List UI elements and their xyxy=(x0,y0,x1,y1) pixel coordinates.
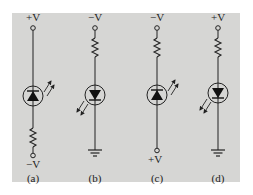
ground-icon xyxy=(211,150,225,156)
led-circuits-diagram: +V −V (a) −V xyxy=(0,0,253,195)
led-icon xyxy=(23,81,54,106)
supply-label-top: −V xyxy=(150,11,164,23)
resistor-icon xyxy=(154,38,160,57)
supply-label-top: +V xyxy=(26,11,40,23)
circuit-a: +V −V (a) xyxy=(23,11,54,185)
supply-label-bottom: +V xyxy=(148,153,162,165)
circuit-b: −V (b) xyxy=(77,11,105,185)
led-icon xyxy=(147,80,178,105)
terminal-icon xyxy=(93,26,98,31)
led-icon xyxy=(77,85,105,115)
caption: (d) xyxy=(212,172,225,185)
resistor-icon xyxy=(215,38,221,57)
caption: (c) xyxy=(151,172,164,185)
supply-label-top: −V xyxy=(88,11,102,23)
resistor-icon xyxy=(30,128,36,147)
terminal-icon xyxy=(216,26,221,31)
supply-label-bottom: −V xyxy=(26,158,40,170)
supply-label-top: +V xyxy=(211,11,225,23)
circuit-d: +V (d) xyxy=(200,11,228,185)
terminal-icon xyxy=(31,26,36,31)
terminal-icon xyxy=(155,26,160,31)
resistor-icon xyxy=(92,38,98,57)
ground-icon xyxy=(88,150,102,156)
caption: (a) xyxy=(27,172,40,185)
caption: (b) xyxy=(89,172,102,185)
circuit-c: −V +V (c) xyxy=(147,11,178,185)
led-icon xyxy=(200,83,228,113)
